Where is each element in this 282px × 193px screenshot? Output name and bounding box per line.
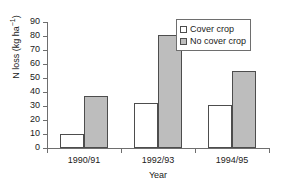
y-axis-tick: 60	[43, 64, 47, 65]
bar-no-cover-crop	[158, 35, 182, 148]
y-axis-title: N loss (kg ha−1)	[11, 0, 21, 107]
y-axis-tick-label: 40	[30, 86, 40, 97]
legend-swatch-no-cover-crop	[180, 38, 187, 45]
x-axis-tick	[121, 149, 122, 153]
x-axis-tick-label: 1990/91	[68, 155, 101, 166]
y-axis-title-text: N loss (kg ha	[11, 26, 21, 79]
y-axis-tick-label: 50	[30, 72, 40, 83]
y-axis-tick-label: 10	[30, 128, 40, 139]
y-axis-tick-label: 30	[30, 100, 40, 111]
bar-chart: N loss (kg ha−1) 9080706050403020100 199…	[0, 0, 282, 193]
y-axis-title-paren: )	[11, 15, 21, 18]
y-axis-tick-label: 70	[30, 44, 40, 55]
x-axis-tick-label: 1992/93	[142, 155, 175, 166]
y-axis-tick-label: 60	[30, 58, 40, 69]
x-axis-title: Year	[47, 170, 269, 181]
y-axis-tick: 40	[43, 92, 47, 93]
y-axis-tick: 90	[43, 22, 47, 23]
bar-no-cover-crop	[84, 96, 108, 148]
x-axis-tick-label: 1994/95	[216, 155, 249, 166]
y-axis-tick-label: 90	[30, 16, 40, 27]
y-axis-tick: 10	[43, 134, 47, 135]
x-axis-tick	[47, 149, 48, 153]
y-axis-title-superscript: −1	[9, 18, 16, 26]
legend-item-no-cover-crop: No cover crop	[180, 35, 246, 47]
y-axis-tick: 70	[43, 50, 47, 51]
y-axis-tick-label: 0	[35, 142, 40, 153]
bar-no-cover-crop	[232, 71, 256, 148]
legend-swatch-cover-crop	[180, 26, 187, 33]
bar-cover-crop	[208, 105, 232, 148]
legend-item-cover-crop: Cover crop	[180, 23, 246, 35]
y-axis-tick: 20	[43, 120, 47, 121]
bar-cover-crop	[60, 134, 84, 148]
y-axis-tick: 50	[43, 78, 47, 79]
legend-label-no-cover-crop: No cover crop	[190, 36, 246, 47]
x-axis-line	[47, 148, 270, 149]
y-axis-tick-label: 20	[30, 114, 40, 125]
bar-cover-crop	[134, 103, 158, 148]
x-axis-tick	[269, 149, 270, 153]
y-axis-line	[47, 22, 48, 149]
y-axis-tick-label: 80	[30, 30, 40, 41]
legend-label-cover-crop: Cover crop	[190, 24, 234, 35]
y-axis-tick: 80	[43, 36, 47, 37]
y-axis-tick: 30	[43, 106, 47, 107]
legend: Cover crop No cover crop	[176, 19, 251, 51]
x-axis-tick	[195, 149, 196, 153]
